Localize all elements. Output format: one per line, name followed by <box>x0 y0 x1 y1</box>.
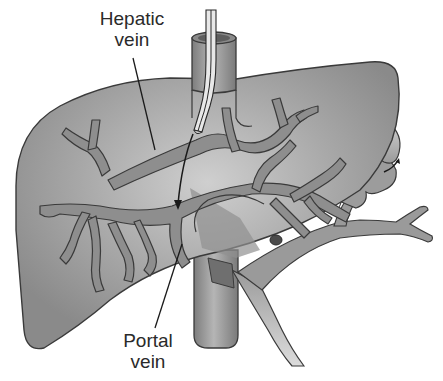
tips-diagram: Hepatic vein Portal vein <box>0 0 443 381</box>
hepatic-vein-label-line2: vein <box>84 29 180 50</box>
portal-vein-label-line2: vein <box>108 351 188 372</box>
vessel-stump <box>270 235 282 245</box>
hepatic-vein-label-line1: Hepatic <box>84 8 180 29</box>
hepatic-vein-label: Hepatic vein <box>84 8 180 50</box>
portal-vein-label-line1: Portal <box>108 330 188 351</box>
portal-vein-label: Portal vein <box>108 330 188 372</box>
